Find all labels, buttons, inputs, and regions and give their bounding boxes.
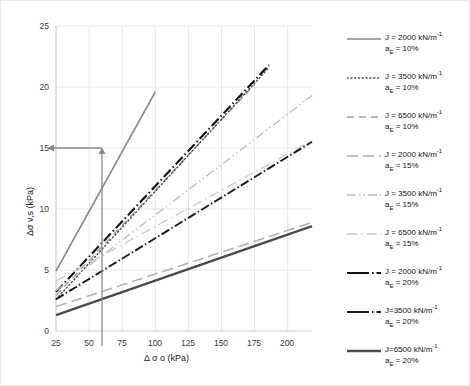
x-tick-175: 175 [243,338,265,348]
legend-item-j3500-a15[interactable]: J = 3500 kN/m-1 aE = 15% [345,183,469,217]
chart-legend: J = 2000 kN/m-1 aE = 10% J = 3500 kN/m-1… [345,23,469,375]
legend-label-j3500-a15: J = 3500 kN/m-1 aE = 15% [385,185,442,213]
x-axis-title: Δ σ o (kPa) [144,353,189,363]
legend-swatch-j3500-a10 [347,74,381,82]
legend-line1-j2000-a20: J = 2000 kN/m [385,267,437,276]
legend-item-j2000-a10[interactable]: J = 2000 kN/m-1 aE = 10% [345,27,469,61]
legend-swatch-j3500-a20 [347,308,381,316]
legend-swatch-j2000-a15 [347,152,381,160]
figure-frame: 25 20 15 10 5 0 25 50 75 100 125 150 175… [0,0,470,386]
legend-label-j3500-a10: J = 3500 kN/m-1 aE = 10% [385,68,442,96]
legend-label-j6500-a20: J=6500 kN/m-1 aE = 20% [385,341,438,369]
legend-line2post-j2000-a15: = 15% [393,161,418,170]
legend-item-j6500-a20[interactable]: J=6500 kN/m-1 aE = 20% [345,339,469,373]
legend-item-j3500-a20[interactable]: J=3500 kN/m-1 aE = 20% [345,300,469,334]
legend-line2post-j3500-a15: = 15% [393,200,418,209]
legend-line1-j6500-a20: J=6500 kN/m [385,345,432,354]
legend-sup-j3500-a15: -1 [437,187,442,193]
legend-item-j3500-a10[interactable]: J = 3500 kN/m-1 aE = 10% [345,66,469,100]
legend-line2post-j3500-a10: = 10% [393,83,418,92]
y-tick-15: 15 [27,143,49,153]
legend-sup-j2000-a10: -1 [437,31,442,37]
legend-sup-j3500-a10: -1 [437,70,442,76]
legend-line2post-j2000-a20: = 20% [393,278,418,287]
legend-swatch-j2000-a20 [347,269,381,277]
x-tick-25: 25 [45,338,67,348]
legend-label-j6500-a10: J = 6500 kN/m-1 aE = 10% [385,107,442,135]
legend-line1-j3500-a15: J = 3500 kN/m [385,189,437,198]
legend-item-j6500-a15[interactable]: J = 6500 kN/m-1 aE = 15% [345,222,469,256]
y-tick-0: 0 [27,326,49,336]
y-tick-25: 25 [27,21,49,31]
x-tick-200: 200 [276,338,298,348]
legend-swatch-j3500-a15 [347,191,381,199]
legend-line1-j3500-a20: J=3500 kN/m [385,306,432,315]
x-tick-100: 100 [144,338,166,348]
legend-sup-j3500-a20: -1 [432,304,437,310]
x-tick-150: 150 [210,338,232,348]
plot-background [56,26,312,331]
x-tick-75: 75 [111,338,133,348]
legend-item-j2000-a15[interactable]: J = 2000 kN/m-1 aE = 15% [345,144,469,178]
legend-line1-j3500-a10: J = 3500 kN/m [385,72,437,81]
legend-label-j6500-a15: J = 6500 kN/m-1 aE = 15% [385,224,442,252]
legend-swatch-j6500-a10 [347,113,381,121]
legend-sup-j2000-a15: -1 [437,148,442,154]
legend-label-j3500-a20: J=3500 kN/m-1 aE = 20% [385,302,438,330]
legend-item-j2000-a20[interactable]: J = 2000 kN/m-1 aE = 20% [345,261,469,295]
legend-line2post-j2000-a10: = 10% [393,44,418,53]
legend-line1-j2000-a10: J = 2000 kN/m [385,33,437,42]
legend-line1-j2000-a15: J = 2000 kN/m [385,150,437,159]
legend-item-j6500-a10[interactable]: J = 6500 kN/m-1 aE = 10% [345,105,469,139]
legend-line2post-j3500-a20: = 20% [393,317,418,326]
legend-swatch-j6500-a20 [347,347,381,355]
x-tick-125: 125 [177,338,199,348]
legend-label-j2000-a20: J = 2000 kN/m-1 aE = 20% [385,263,442,291]
legend-label-j2000-a15: J = 2000 kN/m-1 aE = 15% [385,146,442,174]
y-tick-20: 20 [27,82,49,92]
y-axis-title: Δσ v,s (kPa) [25,187,35,236]
legend-line2post-j6500-a10: = 10% [393,122,418,131]
legend-line2post-j6500-a15: = 15% [393,239,418,248]
legend-line2post-j6500-a20: = 20% [393,356,418,365]
x-tick-50: 50 [78,338,100,348]
legend-sup-j6500-a20: -1 [432,343,437,349]
legend-sup-j6500-a15: -1 [437,226,442,232]
y-tick-5: 5 [27,265,49,275]
legend-swatch-j2000-a10 [347,35,381,43]
legend-swatch-j6500-a15 [347,230,381,238]
legend-label-j2000-a10: J = 2000 kN/m-1 aE = 10% [385,29,442,57]
legend-line1-j6500-a10: J = 6500 kN/m [385,111,437,120]
legend-line1-j6500-a15: J = 6500 kN/m [385,228,437,237]
legend-sup-j2000-a20: -1 [437,265,442,271]
legend-sup-j6500-a10: -1 [437,109,442,115]
